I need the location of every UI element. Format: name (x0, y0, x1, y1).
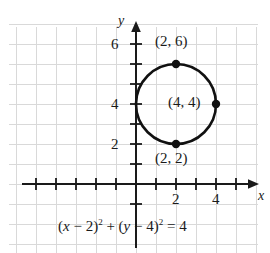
point-2-2 (172, 140, 180, 148)
y-tick-label-4: 4 (111, 97, 119, 112)
x-axis-name-label: x (258, 189, 264, 203)
equation-segment-3: + ( (103, 218, 124, 234)
y-axis-name-label: y (118, 14, 124, 28)
equation-segment-4: − 4) (130, 218, 158, 234)
equation-segment-2: − 2) (70, 218, 98, 234)
circle-equation: (x − 2)2 + (y − 4)2 = 4 (58, 219, 187, 234)
coordinate-graph-figure: 6 4 2 2 4 y x (2, 6) (4, 4) (2, 2) (x − … (0, 0, 270, 253)
equation-segment-5: = 4 (163, 218, 186, 234)
graph-plot (0, 0, 270, 253)
point-2-6 (172, 60, 180, 68)
equation-variable-x: x (63, 218, 70, 234)
point-label-right: (4, 4) (168, 95, 201, 110)
point-label-bottom: (2, 2) (155, 151, 188, 166)
y-tick-label-2: 2 (111, 137, 119, 152)
x-tick-label-2: 2 (172, 192, 180, 207)
y-axis-arrowhead (131, 21, 141, 32)
point-4-4 (212, 100, 220, 108)
x-tick-label-4: 4 (212, 192, 220, 207)
y-tick-label-6: 6 (111, 37, 119, 52)
point-label-top: (2, 6) (155, 34, 188, 49)
